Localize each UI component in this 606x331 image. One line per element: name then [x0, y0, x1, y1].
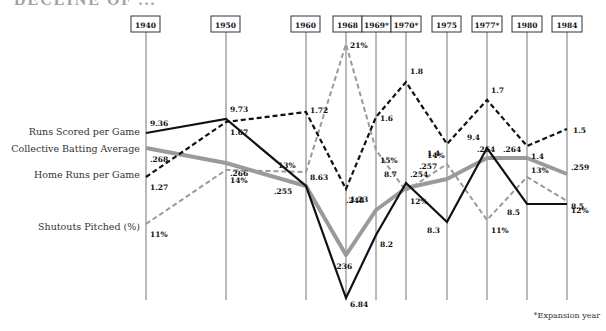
data-label: 1.67: [230, 128, 248, 137]
year-label: 1969*: [364, 21, 389, 30]
data-label: 1.23: [350, 195, 368, 204]
line-chart: 19401950196019681969*1970*19751977*19801…: [0, 0, 606, 331]
year-label: 1970*: [394, 21, 419, 30]
data-label: .259: [571, 163, 589, 172]
data-label: 1.72: [310, 106, 328, 115]
data-label: 6.84: [350, 300, 368, 309]
data-label: .264: [477, 145, 495, 154]
data-label: 11%: [150, 230, 168, 239]
data-label: 8.3: [427, 226, 440, 235]
year-label: 1940: [135, 21, 156, 30]
legend-label: Home Runs per Game: [34, 169, 140, 180]
data-labels: 9.369.738.636.848.28.78.39.48.58.5.268.2…: [150, 41, 589, 309]
data-label: .268: [150, 155, 168, 164]
data-label: 1.4: [531, 152, 544, 161]
data-label: 9.36: [150, 119, 168, 128]
year-label: 1984: [557, 21, 578, 30]
data-label: .255: [274, 187, 292, 196]
data-label: 8.2: [380, 240, 393, 249]
year-label: 1980: [517, 21, 538, 30]
data-label: 12%: [571, 206, 589, 215]
data-label: 13%: [278, 161, 296, 170]
data-label: 13%: [531, 166, 549, 175]
data-label: 11%: [491, 226, 509, 235]
year-label: 1977*: [475, 21, 500, 30]
data-label: 1.27: [150, 183, 168, 192]
data-label: 14%: [230, 176, 248, 185]
footnote: *Expansion year: [534, 311, 601, 320]
data-label: 12%: [410, 197, 428, 206]
year-label: 1968: [337, 21, 358, 30]
year-header-boxes: 19401950196019681969*1970*19751977*19801…: [131, 16, 582, 32]
legend-label: Runs Scored per Game: [29, 126, 141, 137]
data-label: 15%: [380, 156, 398, 165]
data-label: 1.8: [410, 67, 423, 76]
data-label: 14%: [427, 151, 445, 160]
data-label: 21%: [350, 41, 368, 50]
data-label: 8.7: [384, 170, 397, 179]
series-legend: Runs Scored per GameCollective Batting A…: [11, 126, 140, 232]
data-label: .264: [503, 145, 521, 154]
data-label: 1.5: [573, 126, 586, 135]
data-label: .257: [419, 162, 437, 171]
data-label: 1.6: [380, 114, 393, 123]
year-label: 1950: [215, 21, 236, 30]
data-label: 9.73: [230, 105, 248, 114]
data-label: 8.5: [507, 208, 520, 217]
data-series: [146, 44, 567, 298]
year-label: 1975: [436, 21, 457, 30]
year-label: 1960: [295, 21, 316, 30]
data-label: 1.7: [491, 86, 504, 95]
legend-label: Shutouts Pitched (%): [38, 221, 140, 232]
legend-label: Collective Batting Average: [11, 143, 140, 154]
data-label: .254: [410, 170, 428, 179]
data-label: 9.4: [467, 133, 480, 142]
data-label: 8.63: [310, 173, 328, 182]
data-label: .236: [334, 262, 352, 271]
